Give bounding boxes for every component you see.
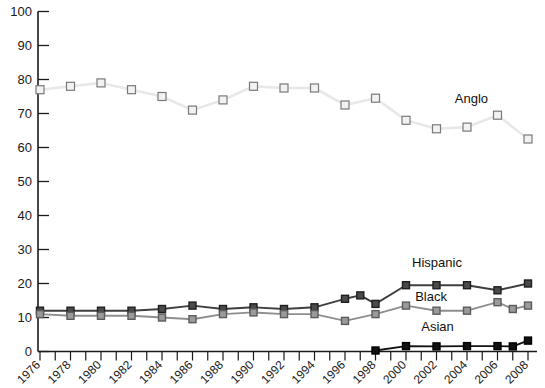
data-point-marker bbox=[403, 302, 410, 309]
data-point-marker bbox=[372, 94, 380, 102]
y-tick-label: 60 bbox=[18, 140, 32, 155]
data-point-marker bbox=[159, 314, 166, 321]
data-point-marker bbox=[311, 84, 319, 92]
y-tick-label: 70 bbox=[18, 106, 32, 121]
data-point-marker bbox=[36, 86, 44, 94]
data-point-marker bbox=[463, 123, 471, 131]
x-tick-label: 1982 bbox=[106, 357, 135, 386]
data-point-marker bbox=[128, 86, 136, 94]
series-label-anglo: Anglo bbox=[455, 91, 488, 106]
data-point-marker bbox=[219, 96, 227, 104]
x-tick-label: 1998 bbox=[350, 357, 379, 386]
data-point-marker bbox=[97, 79, 105, 87]
x-tick-label: 1976 bbox=[14, 357, 43, 386]
x-tick-label: 1978 bbox=[45, 357, 74, 386]
y-axis: 0102030405060708090100 bbox=[10, 4, 49, 359]
data-point-marker bbox=[189, 316, 196, 323]
data-point-marker bbox=[159, 306, 166, 313]
data-point-marker bbox=[433, 307, 440, 314]
x-tick-label: 1996 bbox=[319, 357, 348, 386]
data-point-marker bbox=[342, 317, 349, 324]
data-point-marker bbox=[433, 343, 440, 350]
data-point-marker bbox=[311, 311, 318, 318]
x-tick-label: 2004 bbox=[441, 357, 470, 386]
data-point-marker bbox=[220, 311, 227, 318]
x-tick-label: 1994 bbox=[289, 357, 318, 386]
data-point-marker bbox=[67, 82, 75, 90]
x-tick-label: 2006 bbox=[472, 357, 501, 386]
series-anglo bbox=[36, 79, 532, 143]
y-tick-label: 20 bbox=[18, 276, 32, 291]
chart-canvas: 0102030405060708090100 19761978198019821… bbox=[0, 0, 545, 388]
data-point-marker bbox=[250, 309, 257, 316]
data-point-marker bbox=[189, 106, 197, 114]
data-point-marker bbox=[433, 125, 441, 133]
data-point-marker bbox=[67, 312, 74, 319]
x-tick-label: 2002 bbox=[411, 357, 440, 386]
data-point-marker bbox=[494, 299, 501, 306]
data-point-marker bbox=[524, 135, 532, 143]
data-point-marker bbox=[494, 287, 501, 294]
data-point-marker bbox=[402, 116, 410, 124]
data-point-marker bbox=[372, 311, 379, 318]
data-point-marker bbox=[158, 93, 166, 101]
data-point-marker bbox=[372, 300, 379, 307]
data-point-marker bbox=[128, 312, 135, 319]
x-tick-label: 1990 bbox=[228, 357, 257, 386]
x-tick-label: 1986 bbox=[167, 357, 196, 386]
data-point-marker bbox=[509, 343, 516, 350]
data-point-marker bbox=[525, 302, 532, 309]
data-point-marker bbox=[281, 311, 288, 318]
data-point-marker bbox=[342, 295, 349, 302]
y-tick-label: 100 bbox=[10, 4, 32, 19]
data-point-marker bbox=[464, 282, 471, 289]
y-tick-label: 10 bbox=[18, 310, 32, 325]
data-point-marker bbox=[494, 343, 501, 350]
data-point-marker bbox=[525, 280, 532, 287]
x-tick-label: 1980 bbox=[75, 357, 104, 386]
x-tick-label: 1992 bbox=[258, 357, 287, 386]
x-tick-label: 2000 bbox=[380, 357, 409, 386]
y-tick-label: 50 bbox=[18, 174, 32, 189]
data-point-marker bbox=[37, 311, 44, 318]
y-tick-label: 30 bbox=[18, 242, 32, 257]
series-label-asian: Asian bbox=[421, 319, 454, 334]
data-point-marker bbox=[494, 111, 502, 119]
x-tick-label: 2008 bbox=[502, 357, 531, 386]
y-tick-label: 0 bbox=[25, 344, 32, 359]
data-point-marker bbox=[98, 312, 105, 319]
data-point-marker bbox=[464, 343, 471, 350]
data-series-group bbox=[36, 79, 532, 354]
x-axis: 1976197819801982198419861988199019921994… bbox=[14, 352, 537, 387]
data-point-marker bbox=[357, 292, 364, 299]
series-label-hispanic: Hispanic bbox=[412, 255, 462, 270]
data-point-marker bbox=[525, 337, 532, 344]
data-point-marker bbox=[509, 306, 516, 313]
line-chart: 0102030405060708090100 19761978198019821… bbox=[0, 0, 545, 388]
y-tick-label: 40 bbox=[18, 208, 32, 223]
y-tick-label: 80 bbox=[18, 72, 32, 87]
y-tick-label: 90 bbox=[18, 38, 32, 53]
x-tick-label: 1984 bbox=[136, 357, 165, 386]
data-point-marker bbox=[341, 101, 349, 109]
data-point-marker bbox=[280, 84, 288, 92]
data-point-marker bbox=[403, 343, 410, 350]
data-point-marker bbox=[189, 302, 196, 309]
x-tick-label: 1988 bbox=[197, 357, 226, 386]
series-hispanic bbox=[37, 280, 532, 314]
data-point-marker bbox=[311, 304, 318, 311]
series-label-black: Black bbox=[415, 289, 447, 304]
data-point-marker bbox=[464, 307, 471, 314]
data-point-marker bbox=[403, 282, 410, 289]
data-point-marker bbox=[250, 82, 258, 90]
data-point-marker bbox=[372, 347, 379, 354]
